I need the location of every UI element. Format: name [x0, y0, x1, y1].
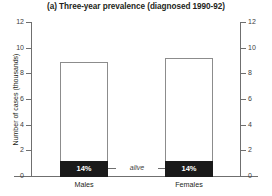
- bar-males-dead-segment[interactable]: 14%: [60, 161, 108, 177]
- y-tick-right-6: [241, 99, 246, 100]
- bar-males[interactable]: [60, 62, 108, 177]
- y-tick-label-right-4: 4: [248, 121, 264, 128]
- y-axis-title: Number of cases (thousands): [12, 35, 19, 165]
- y-tick-right-4: [241, 125, 246, 126]
- y-tick-left-6: [26, 99, 31, 100]
- plot-area: 0 2 4 6 8 10 12 0 2 4 6 8 10 12 Number o…: [0, 0, 272, 196]
- y-tick-label-right-2: 2: [248, 146, 264, 153]
- bar-males-data-label: 14%: [76, 165, 91, 173]
- y-tick-label-right-12: 12: [248, 18, 264, 25]
- bar-females-dead-segment[interactable]: 14%: [165, 161, 213, 177]
- bar-females[interactable]: [165, 58, 213, 177]
- alive-annotation-label: alive: [116, 164, 158, 171]
- y-tick-label-right-6: 6: [248, 95, 264, 102]
- y-tick-right-2: [241, 150, 246, 151]
- y-tick-left-0: [26, 176, 31, 177]
- y-tick-left-4: [26, 125, 31, 126]
- bar-females-data-label: 14%: [181, 165, 196, 173]
- y-tick-label-right-0: 0: [248, 172, 264, 179]
- y-tick-right-10: [241, 48, 246, 49]
- y-tick-left-2: [26, 150, 31, 151]
- x-category-label-males: Males: [60, 180, 108, 189]
- y-tick-label-left-0: 0: [8, 172, 24, 179]
- y-tick-left-10: [26, 48, 31, 49]
- y-axis-left-line: [31, 22, 32, 177]
- y-tick-label-left-12: 12: [8, 18, 24, 25]
- y-tick-label-right-8: 8: [248, 69, 264, 76]
- chart-container: (a) Three-year prevalence (diagnosed 199…: [0, 0, 272, 196]
- x-axis-baseline: [14, 176, 258, 177]
- y-tick-right-8: [241, 73, 246, 74]
- y-tick-left-12: [26, 22, 31, 23]
- y-tick-right-12: [241, 22, 246, 23]
- y-tick-right-0: [241, 176, 246, 177]
- y-tick-label-right-10: 10: [248, 44, 264, 51]
- x-category-label-females: Females: [165, 180, 213, 189]
- y-tick-left-8: [26, 73, 31, 74]
